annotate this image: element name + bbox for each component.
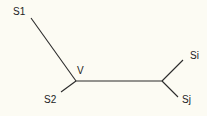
label-s1: S1 xyxy=(13,7,25,17)
label-si: Si xyxy=(190,51,199,61)
label-s2: S2 xyxy=(44,95,56,105)
edge-s2-v xyxy=(61,81,76,92)
edge-s1-v xyxy=(31,18,76,81)
edge-u-sj xyxy=(162,81,178,97)
label-sj: Sj xyxy=(182,95,191,105)
edge-u-si xyxy=(162,60,183,81)
label-v: V xyxy=(77,66,84,76)
tree-edges xyxy=(0,0,207,116)
tree-diagram: S1 V S2 Si Sj xyxy=(0,0,207,116)
